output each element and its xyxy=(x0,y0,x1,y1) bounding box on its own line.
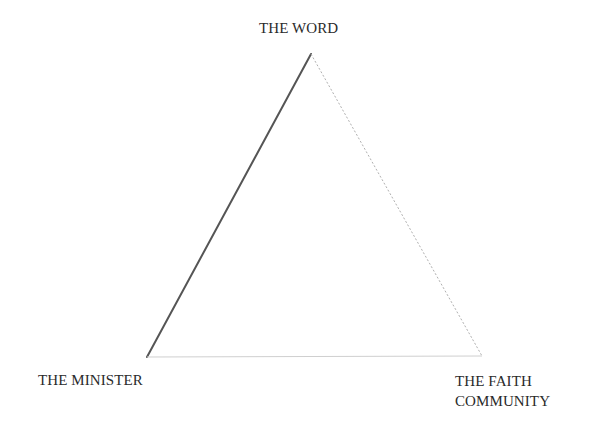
vertex-label-line-1: THE FAITH xyxy=(455,371,575,391)
vertex-label-line-2: COMMUNITY xyxy=(455,391,575,411)
edge-word-to-faith-community xyxy=(311,54,482,356)
triangle-diagram: THE WORD THE MINISTER THE FAITH COMMUNIT… xyxy=(0,0,614,446)
vertex-label-the-word: THE WORD xyxy=(259,18,338,38)
vertex-label-the-minister: THE MINISTER xyxy=(38,370,143,390)
edge-minister-to-word xyxy=(147,54,311,357)
vertex-label-the-faith-community: THE FAITH COMMUNITY xyxy=(455,371,575,411)
edge-minister-to-faith-community xyxy=(147,356,482,357)
